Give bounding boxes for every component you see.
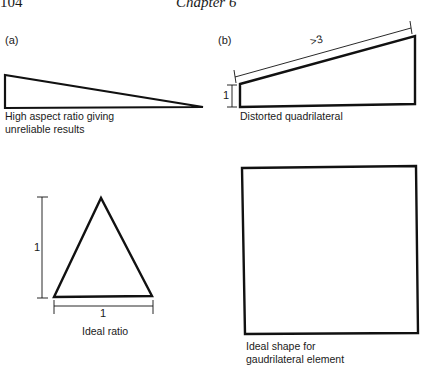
distorted-quadrilateral [240, 36, 415, 107]
panel-b-label: (b) [218, 34, 231, 46]
panel-a-caption-line2: unreliable results [5, 123, 84, 136]
panel-d-caption-line1: Ideal shape for [246, 340, 315, 353]
panel-c-caption: Ideal ratio [82, 325, 128, 338]
ideal-triangle [54, 198, 152, 297]
panel-a-label: (a) [5, 34, 18, 46]
high-aspect-triangle [5, 75, 203, 108]
ideal-square [242, 166, 418, 334]
panel-a-caption-line1: High aspect ratio giving [5, 110, 114, 123]
dimension-short-label: 1 [223, 89, 229, 101]
panel-d-caption-line2: gaudrilateral element [246, 353, 344, 366]
dimension-base-label: 1 [100, 307, 106, 319]
dimension-height-label: 1 [34, 241, 40, 253]
panel-b-caption: Distorted quadrilateral [240, 110, 343, 123]
